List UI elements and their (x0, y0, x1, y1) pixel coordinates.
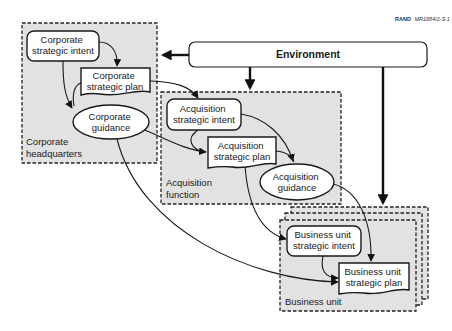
node-business-unit-strategic-intent: Business unit strategic intent (287, 226, 361, 256)
node-acquisition-guidance: Acquisition guidance (260, 164, 334, 200)
credit-id: MR1684/2-S.1 (414, 16, 449, 22)
node-acquisition-strategic-plan: Acquisition strategic plan (208, 137, 276, 168)
node-corporate-strategic-intent: Corporate strategic intent (27, 31, 99, 61)
svg-text:Corporate strategic plan: Corporate strategic plan (87, 70, 144, 92)
node-corporate-guidance: Corporate guidance (73, 105, 149, 139)
strategy-diagram: RAND MR1684/2-S.1 Corporate headquarters… (0, 0, 452, 331)
svg-text:Corporate guidance: Corporate guidance (89, 111, 134, 133)
region-label-business-unit: Business unit (285, 296, 342, 307)
svg-text:Acquisition strategic pl: Acquisition strategic plan (214, 140, 271, 162)
environment-label: Environment (276, 48, 341, 60)
svg-text:Corporate strategic inte: Corporate strategic intent (32, 34, 94, 56)
environment-box: Environment (189, 42, 427, 67)
svg-text:Business unit strategic: Business unit strategic intent (293, 229, 355, 251)
svg-text:Acquisition strategic in: Acquisition strategic intent (173, 103, 235, 125)
node-corporate-strategic-plan: Corporate strategic plan (81, 68, 150, 95)
svg-text:Business unit strategic: Business unit strategic plan (344, 266, 403, 288)
node-business-unit-strategic-plan: Business unit strategic plan (339, 263, 409, 294)
svg-text:Acquisition guidance: Acquisition guidance (273, 171, 322, 193)
node-acquisition-strategic-intent: Acquisition strategic intent (167, 99, 241, 130)
credit-org: RAND (395, 16, 411, 22)
figure-credit: RAND MR1684/2-S.1 (395, 16, 450, 22)
